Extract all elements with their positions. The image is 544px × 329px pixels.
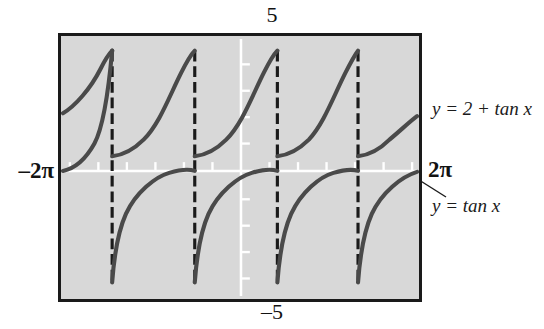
- figure-container: 5 –5 –2π 2π y = 2 + tan x y = tan x: [0, 0, 544, 329]
- curve-branch: [277, 170, 358, 282]
- curve-label-2-plus-tan: y = 2 + tan x: [432, 99, 532, 118]
- curve-branch: [195, 51, 278, 157]
- y-axis-min-label: –5: [0, 301, 544, 323]
- y-axis-max-label: 5: [0, 4, 544, 26]
- asymptotes: [112, 51, 358, 283]
- curve-branch: [112, 51, 195, 157]
- plot-area: [58, 33, 422, 302]
- plot-graphics: [61, 36, 419, 299]
- curve-branch: [358, 172, 417, 282]
- x-axis-min-label: –2π: [6, 159, 54, 182]
- curve-branch: [63, 51, 112, 171]
- y-axis: [241, 39, 250, 296]
- curve-branch: [195, 170, 278, 282]
- curve-branch: [112, 170, 195, 282]
- curve-branch: [277, 51, 358, 157]
- curve-branch: [358, 116, 417, 156]
